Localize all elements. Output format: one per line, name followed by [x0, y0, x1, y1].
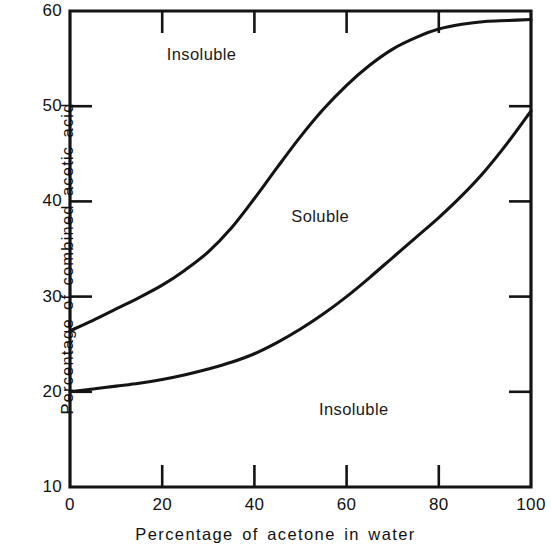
x-tick-label: 80: [429, 495, 449, 515]
region-label-lower: Insoluble: [319, 400, 389, 419]
x-axis-title: Percentage of acetone in water: [0, 525, 551, 544]
region-label-middle: Soluble: [291, 207, 349, 226]
axis-ticks: [70, 11, 531, 487]
curve-0: [70, 20, 531, 331]
y-tick-label: 40: [24, 191, 62, 211]
plot-frame: [70, 11, 531, 487]
y-tick-label: 60: [24, 1, 62, 21]
plot-canvas: [0, 0, 551, 559]
x-tick-label: 60: [337, 495, 357, 515]
x-tick-label: 40: [245, 495, 265, 515]
y-tick-label: 10: [24, 477, 62, 497]
region-label-upper: Insoluble: [167, 45, 237, 64]
y-tick-label: 50: [24, 96, 62, 116]
curve-1: [70, 111, 531, 392]
x-tick-label: 100: [516, 495, 545, 515]
y-tick-label: 20: [24, 382, 62, 402]
x-tick-label: 20: [152, 495, 172, 515]
data-curves: [70, 20, 531, 392]
solubility-phase-chart: 102030405060 020406080100 InsolubleSolub…: [0, 0, 551, 559]
x-tick-label: 0: [65, 495, 75, 515]
y-axis-title: Percentage of combined acetic acid: [58, 49, 77, 469]
axes-frame: [70, 11, 531, 487]
y-tick-label: 30: [24, 287, 62, 307]
